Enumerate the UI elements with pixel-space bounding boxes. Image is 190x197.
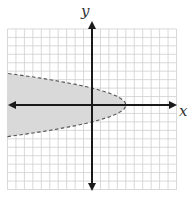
y-axis-label: y [80,2,90,20]
arrow-up-icon [88,21,96,29]
arrow-right-icon [169,101,177,109]
x-axis-label: x [179,102,188,120]
coordinate-plane: y x [0,0,190,197]
